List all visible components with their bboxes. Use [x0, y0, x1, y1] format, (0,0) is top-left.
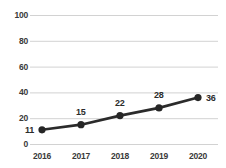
x-axis-tick-label: 2020 — [181, 152, 215, 161]
y-axis-tick-label: 60 — [2, 63, 28, 72]
line-chart: 020406080100 20162017201820192020 111522… — [0, 0, 226, 168]
gridlines-group — [30, 16, 218, 145]
data-point-value-label: 28 — [154, 91, 164, 100]
y-axis-tick-label: 80 — [2, 37, 28, 46]
data-point-value-label: 22 — [115, 99, 125, 108]
data-point-marker — [77, 121, 84, 128]
data-point-marker — [155, 104, 162, 111]
y-axis-tick-label: 100 — [2, 11, 28, 20]
y-axis-tick-label: 20 — [2, 114, 28, 123]
x-axis-tick-label: 2017 — [64, 152, 98, 161]
y-axis-tick-label: 40 — [2, 88, 28, 97]
data-point-value-label: 15 — [76, 108, 86, 117]
x-axis-tick-label: 2018 — [103, 152, 137, 161]
x-axis-tick-label: 2019 — [142, 152, 176, 161]
chart-plot-area — [0, 0, 226, 168]
data-point-value-label: 36 — [206, 94, 216, 103]
data-point-marker — [194, 94, 201, 101]
data-point-marker — [116, 112, 123, 119]
data-point-value-label: 11 — [25, 126, 34, 135]
y-axis-tick-label: 0 — [2, 140, 28, 149]
data-point-marker — [38, 126, 45, 133]
x-axis-tick-label: 2016 — [25, 152, 59, 161]
